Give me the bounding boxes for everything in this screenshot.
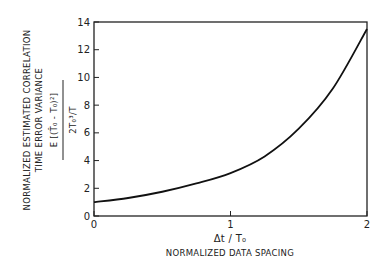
y-tick-label: 8 [84, 100, 90, 111]
chart: 02468101214 012 Δt / T₀ NORMALIZED DATA … [0, 0, 388, 270]
x-tick-label: 2 [364, 219, 370, 230]
x-axis-symbol: Δt / T₀ [214, 233, 247, 244]
y-tick-label: 4 [84, 155, 90, 166]
x-tick-label: 1 [227, 219, 233, 230]
y-tick-label: 2 [84, 183, 90, 194]
y-tick-label: 12 [77, 44, 90, 55]
data-curve [94, 29, 367, 202]
y-axis-label-line1: NORMALIZED ESTIMATED CORRELATION [22, 30, 32, 211]
y-tick-label: 0 [84, 211, 90, 222]
y-tick-label: 14 [77, 17, 90, 28]
y-tick-label: 6 [84, 127, 90, 138]
y-axis-formula-denominator: 2T₀³/T [68, 106, 78, 134]
y-axis-formula-numerator: E [(T̂₀ - T₀)²] [48, 93, 59, 148]
y-tick-label: 10 [77, 72, 90, 83]
y-axis-ticks: 02468101214 [77, 17, 99, 222]
y-axis-label-line2: TIME ERROR VARIANCE [34, 68, 44, 173]
plot-frame [94, 22, 367, 216]
x-tick-label: 0 [91, 219, 97, 230]
x-axis-label: NORMALIZED DATA SPACING [166, 248, 294, 258]
x-axis-ticks: 012 [91, 211, 370, 230]
